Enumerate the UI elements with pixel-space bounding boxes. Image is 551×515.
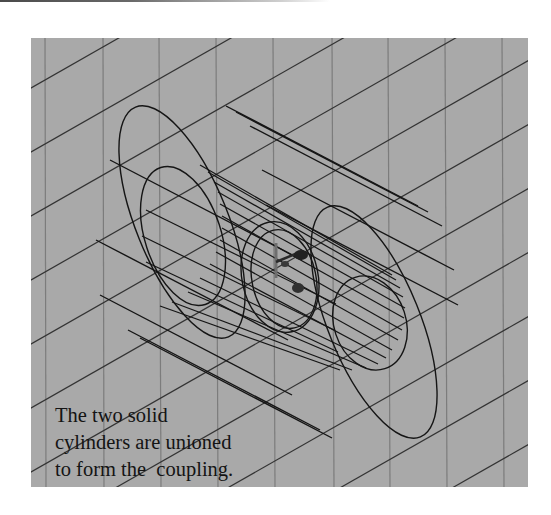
figure-caption: The two solid cylinders are unioned to f… xyxy=(55,402,233,483)
caption-line-2: cylinders are unioned xyxy=(55,429,233,456)
caption-line-1: The two solid xyxy=(55,402,233,429)
top-edge-bar xyxy=(0,0,330,2)
caption-line-3: to form the coupling. xyxy=(55,456,233,483)
inner-cylinder xyxy=(125,156,419,380)
viewport-panel: The two solid cylinders are unioned to f… xyxy=(31,38,528,487)
